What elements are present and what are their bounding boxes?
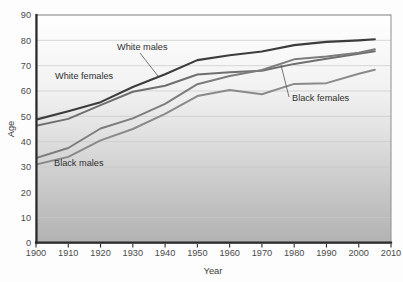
- xtick-label-2010: 2010: [381, 248, 401, 258]
- xtick-label-2000: 2000: [349, 248, 369, 258]
- xtick-label-1920: 1920: [90, 248, 110, 258]
- ytick-label-50: 50: [21, 112, 31, 122]
- xtick-label-1970: 1970: [252, 248, 272, 258]
- ytick-label-70: 70: [21, 61, 31, 71]
- xtick-label-1980: 1980: [284, 248, 304, 258]
- x-axis-tickmarks: [36, 244, 391, 248]
- xtick-label-1950: 1950: [187, 248, 207, 258]
- xtick-label-1910: 1910: [58, 248, 78, 258]
- xtick-label-1960: 1960: [219, 248, 239, 258]
- plot-background: [36, 15, 391, 243]
- ytick-label-20: 20: [21, 188, 31, 198]
- x-axis-tick-labels: 1900191019201930194019501960197019801990…: [26, 248, 401, 258]
- ytick-label-0: 0: [26, 238, 31, 248]
- y-axis-title: Age: [5, 121, 16, 138]
- xtick-label-1930: 1930: [123, 248, 143, 258]
- annotation-label-black-females: Black females: [292, 93, 350, 103]
- ytick-label-40: 40: [21, 137, 31, 147]
- ytick-label-10: 10: [21, 213, 31, 223]
- ytick-label-80: 80: [21, 36, 31, 46]
- ytick-label-90: 90: [21, 10, 31, 20]
- chart-figure: 0102030405060708090 19001910192019301940…: [0, 0, 403, 282]
- y-axis-tick-labels: 0102030405060708090: [21, 10, 31, 248]
- ytick-label-60: 60: [21, 86, 31, 96]
- xtick-label-1900: 1900: [26, 248, 46, 258]
- ytick-label-30: 30: [21, 162, 31, 172]
- xtick-label-1990: 1990: [316, 248, 336, 258]
- x-axis-title: Year: [204, 265, 223, 276]
- xtick-label-1940: 1940: [155, 248, 175, 258]
- annotation-label-white-males: White males: [117, 42, 168, 52]
- annotation-label-black-males: Black males: [54, 158, 104, 168]
- annotation-label-white-females: White females: [55, 71, 114, 81]
- life-expectancy-line-chart: 0102030405060708090 19001910192019301940…: [0, 0, 403, 282]
